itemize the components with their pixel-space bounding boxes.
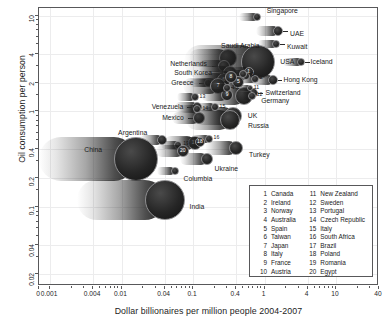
x-axis-title: Dollar billionaires per million people 2… <box>38 306 379 316</box>
legend-row: 9France19Romania <box>256 259 367 268</box>
x-tick-minor <box>298 286 299 288</box>
country-label: Kuwait <box>287 44 307 51</box>
legend-row: 8Italy18Poland <box>256 250 367 259</box>
data-bubble[interactable] <box>225 71 237 83</box>
data-bubble[interactable] <box>247 85 253 91</box>
data-bubble[interactable] <box>191 93 199 101</box>
country-label: Turkey <box>249 152 270 159</box>
legend-name-left: Norway <box>271 207 304 216</box>
country-label: Ukraine <box>215 166 238 173</box>
x-tick-minor <box>117 286 118 288</box>
label-leader-line <box>278 80 282 81</box>
x-tick-minor <box>314 286 315 288</box>
legend-name-left: Taiwan <box>271 233 304 242</box>
point-index-label: 11 <box>254 85 259 90</box>
data-bubble[interactable] <box>171 167 179 175</box>
data-bubble[interactable] <box>253 13 261 21</box>
legend-name-left: Canada <box>271 190 304 199</box>
legend-name-right: Romania <box>320 259 367 268</box>
label-leader-line <box>187 107 192 108</box>
country-label: Hong Kong <box>284 77 318 84</box>
country-label: Russia <box>248 123 269 130</box>
legend-number-left: 5 <box>256 225 271 234</box>
x-tick-minor <box>83 286 84 288</box>
label-leader-line <box>280 44 285 45</box>
country-label: UK <box>248 113 257 120</box>
country-label: Saudi Arabia <box>221 43 260 50</box>
x-tick-minor <box>214 286 215 288</box>
country-label: Singapore <box>267 8 298 15</box>
x-tick <box>235 286 236 289</box>
x-tick-minor <box>252 286 253 288</box>
data-bubble[interactable] <box>114 137 158 181</box>
country-label: Columbia <box>184 176 213 183</box>
legend-number-left: 7 <box>256 242 271 251</box>
label-leader-line <box>188 118 193 119</box>
x-tick-minor <box>369 286 370 288</box>
country-label: Venezuela <box>152 104 184 111</box>
x-tick <box>264 286 265 289</box>
x-tick-minor <box>189 286 190 288</box>
point-index-label: 15 <box>220 104 226 109</box>
x-tick-minor <box>328 286 329 288</box>
data-bubble[interactable] <box>272 40 280 48</box>
legend-row: 4Australia14Czech Republic <box>256 216 367 225</box>
data-bubble[interactable] <box>229 141 243 155</box>
legend-row: 2Ireland12Sweden <box>256 199 367 208</box>
x-tick-minor <box>332 286 333 288</box>
data-bubble[interactable] <box>195 137 205 147</box>
legend-name-right: South Africa <box>320 233 367 242</box>
x-tick-minor <box>226 286 227 288</box>
x-tick-minor <box>105 286 106 288</box>
legend-number-right: 15 <box>304 225 320 234</box>
x-tick <box>307 286 308 289</box>
data-bubble[interactable] <box>205 135 213 143</box>
x-tick-minor <box>110 286 111 288</box>
data-bubble[interactable] <box>220 110 240 130</box>
legend-number-left: 2 <box>256 199 271 208</box>
legend-name-left: Austria <box>271 268 304 277</box>
y-tick-label: 0.4 <box>2 143 32 153</box>
x-tick <box>164 286 165 289</box>
x-tick-label: 0.1 <box>172 290 212 297</box>
point-index-label: 16 <box>214 135 220 140</box>
data-bubble[interactable] <box>248 92 256 100</box>
x-tick <box>121 286 122 289</box>
point-index-label: 13 <box>200 94 206 99</box>
legend-name-right: Poland <box>320 250 367 259</box>
data-bubble[interactable] <box>201 153 213 165</box>
country-label: India <box>190 204 205 211</box>
gridline-horizontal <box>39 16 377 17</box>
label-leader-line <box>258 93 263 94</box>
legend-name-right: Italy <box>320 225 367 234</box>
y-tick-label: 1 <box>2 105 32 115</box>
legend-table: 1Canada11New Zealand2Ireland12Sweden3Nor… <box>256 190 367 276</box>
legend-number-left: 10 <box>256 268 271 277</box>
legend-number-right: 19 <box>304 259 320 268</box>
data-bubble[interactable] <box>177 145 189 157</box>
label-leader-line <box>305 62 310 63</box>
x-tick-minor <box>248 286 249 288</box>
y-tick-label: 0.02 <box>2 268 32 278</box>
point-index-label: 4 <box>248 71 251 76</box>
label-leader-line <box>199 83 204 84</box>
data-bubble[interactable] <box>273 26 283 36</box>
legend-row: 3Norway13Portugal <box>256 207 367 216</box>
x-tick-minor <box>171 286 172 288</box>
legend-row: 1Canada11New Zealand <box>256 190 367 199</box>
point-index-label: 10 <box>232 85 238 90</box>
x-tick-minor <box>357 286 358 288</box>
data-bubble[interactable] <box>211 103 219 111</box>
legend-name-right: Czech Republic <box>320 216 367 225</box>
country-label: USA <box>280 59 294 66</box>
label-leader-line <box>217 73 223 74</box>
legend-number-left: 3 <box>256 207 271 216</box>
data-bubble[interactable] <box>145 180 185 220</box>
data-bubble[interactable] <box>268 75 278 85</box>
x-tick-minor <box>181 286 182 288</box>
legend-name-right: Brazil <box>320 242 367 251</box>
x-tick-label: 0.001 <box>29 290 69 297</box>
data-bubble[interactable] <box>297 58 305 66</box>
legend-number-right: 11 <box>304 190 320 199</box>
legend-number-right: 17 <box>304 242 320 251</box>
